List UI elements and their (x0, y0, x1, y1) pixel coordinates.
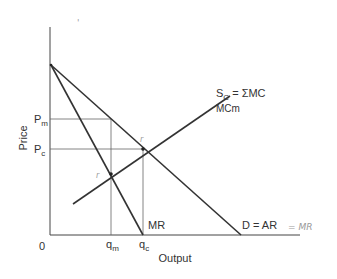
handwritten-mark-competitive: r (140, 135, 144, 144)
x-axis-label: Output (158, 252, 191, 264)
supply-label-line2: MCm (216, 103, 240, 114)
supply-demand-diagram: Price Output 0 Pm Pc qm qc SC = ΣMC MCm … (0, 0, 337, 279)
origin-label: 0 (39, 240, 45, 252)
mr-label: MR (148, 219, 165, 231)
handwritten-tick-mark: ' (77, 18, 79, 28)
monopoly-mr-mc-point (109, 172, 113, 176)
marginal-revenue-curve (51, 65, 143, 235)
pm-label: Pm (34, 113, 48, 128)
y-intercept-point (50, 64, 53, 67)
demand-curve (51, 65, 241, 235)
supply-label-line1: SC = ΣMC (216, 87, 266, 102)
competitive-equilibrium-point (141, 147, 145, 151)
handwritten-mark-monopoly: r (96, 171, 100, 180)
qc-label: qc (139, 238, 149, 253)
pc-label: Pc (34, 143, 45, 158)
y-axis-label: Price (17, 125, 29, 150)
demand-label: D = AR (242, 219, 277, 231)
qm-label: qm (106, 238, 119, 253)
handwritten-mr-note: = MR (288, 222, 312, 232)
